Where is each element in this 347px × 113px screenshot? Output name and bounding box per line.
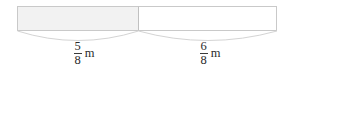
right-unit: m — [211, 45, 221, 61]
right-numerator: 6 — [200, 40, 208, 53]
right-measure-label: 6 8 m — [170, 40, 250, 66]
left-measure-label: 5 8 m — [44, 40, 124, 66]
left-numerator: 5 — [74, 40, 82, 53]
left-fraction: 5 8 — [74, 40, 82, 67]
right-fraction: 6 8 — [200, 40, 208, 67]
right-segment-rect — [139, 7, 277, 31]
fraction-bar-diagram: 5 8 m 6 8 m — [0, 0, 347, 113]
left-segment-rect — [18, 7, 139, 31]
left-denominator: 8 — [74, 53, 82, 67]
left-unit: m — [85, 45, 95, 61]
right-denominator: 8 — [200, 53, 208, 67]
